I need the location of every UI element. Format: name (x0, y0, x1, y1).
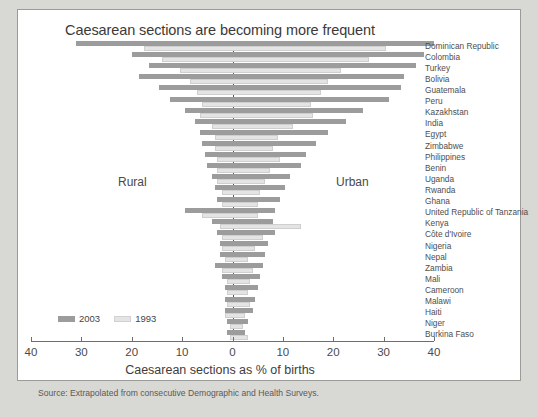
country-label: Burkina Faso (425, 330, 474, 338)
chart-row (31, 263, 434, 274)
source-note: Source: Extrapolated from consecutive De… (38, 388, 319, 398)
x-axis-tick-label: 30 (377, 346, 390, 358)
country-label: Dominican Republic (425, 42, 499, 50)
bar-1993 (220, 224, 301, 229)
country-label: Rwanda (425, 186, 455, 194)
bar-1993 (225, 257, 248, 262)
x-axis-tick (233, 337, 234, 341)
country-label: Zambia (425, 264, 453, 272)
bar-1993 (217, 157, 280, 162)
chart-row (31, 74, 434, 85)
x-axis-tick-label: 20 (125, 346, 138, 358)
x-axis-label: Caesarean sections as % of births (18, 363, 422, 377)
chart-row (31, 163, 434, 174)
bar-1993 (162, 57, 369, 62)
bar-1993 (180, 68, 341, 73)
chart-row (31, 97, 434, 108)
x-axis-tick (81, 337, 82, 341)
chart-row (31, 119, 434, 130)
chart-row (31, 274, 434, 285)
country-label: Mali (425, 275, 440, 283)
country-label: Philippines (425, 153, 465, 161)
legend-label-1993: 1993 (135, 313, 156, 324)
country-label: India (425, 119, 443, 127)
chart-row (31, 285, 434, 296)
legend-swatch-1993 (114, 316, 131, 322)
x-axis-tick (283, 337, 284, 341)
country-label: Haiti (425, 308, 442, 316)
bar-1993 (227, 279, 250, 284)
x-axis-tick-label: 20 (327, 346, 340, 358)
chart-row (31, 197, 434, 208)
chart-title: Caesarean sections are becoming more fre… (18, 22, 422, 38)
x-axis-tick (182, 337, 183, 341)
bar-1993 (225, 313, 245, 318)
chart-row (31, 252, 434, 263)
bar-1993 (227, 290, 247, 295)
chart-row (31, 185, 434, 196)
legend-item-1993: 1993 (114, 313, 156, 324)
bar-1993 (197, 90, 320, 95)
chart-row (31, 208, 434, 219)
country-label: Niger (425, 319, 445, 327)
country-label: Ghana (425, 197, 450, 205)
figure-panel: Caesarean sections are becoming more fre… (17, 9, 521, 381)
bar-1993 (212, 124, 293, 129)
country-label: Kenya (425, 219, 449, 227)
x-axis-tick (132, 337, 133, 341)
chart-row (31, 174, 434, 185)
country-label: Colombia (425, 53, 460, 61)
x-axis-tick-label: 10 (176, 346, 189, 358)
country-label: Bolivia (425, 75, 449, 83)
chart-row (31, 230, 434, 241)
x-axis-tick-label: 40 (428, 346, 441, 358)
chart-legend: 2003 1993 (58, 313, 170, 324)
country-label: Egypt (425, 130, 446, 138)
x-axis-tick-label: 30 (75, 346, 88, 358)
chart-row (31, 108, 434, 119)
bar-1993 (215, 146, 273, 151)
country-label: Uganda (425, 175, 454, 183)
bar-1993 (215, 135, 278, 140)
bar-1993 (144, 46, 386, 51)
legend-label-2003: 2003 (79, 313, 100, 324)
country-label: Kazakhstan (425, 108, 468, 116)
x-axis-tick-label: 10 (276, 346, 289, 358)
country-label: Nigeria (425, 242, 451, 250)
bar-1993 (230, 324, 243, 329)
bar-1993 (202, 102, 310, 107)
bar-1993 (200, 113, 313, 118)
country-label: Guatemala (425, 86, 466, 94)
x-axis (31, 341, 434, 342)
chart-row (31, 52, 434, 63)
bar-1993 (217, 179, 265, 184)
legend-swatch-2003 (58, 316, 75, 322)
bar-1993 (227, 302, 250, 307)
country-label: Benin (425, 164, 446, 172)
chart-row (31, 152, 434, 163)
bar-1993 (202, 213, 257, 218)
bar-1993 (222, 235, 262, 240)
country-label: Cameroon (425, 286, 464, 294)
bar-1993 (217, 168, 270, 173)
country-label: Malawi (425, 297, 451, 305)
chart-row (31, 85, 434, 96)
country-label: Zimbabwe (425, 142, 463, 150)
bar-1993 (222, 202, 257, 207)
bar-1993 (222, 268, 252, 273)
bar-1993 (222, 246, 255, 251)
bar-1993 (190, 79, 329, 84)
country-label: Peru (425, 97, 443, 105)
chart-row (31, 141, 434, 152)
plot-area (31, 41, 434, 341)
country-label: Côte d'Ivoire (425, 230, 471, 238)
x-axis-tick (333, 337, 334, 341)
chart-row (31, 219, 434, 230)
country-label: Nepal (425, 253, 447, 261)
chart-row (31, 41, 434, 52)
country-label: Turkey (425, 64, 450, 72)
chart-row (31, 130, 434, 141)
x-axis-tick-label: 40 (25, 346, 38, 358)
country-label: United Republic of Tanzania (425, 208, 528, 216)
rural-side-label: Rural (118, 175, 147, 189)
